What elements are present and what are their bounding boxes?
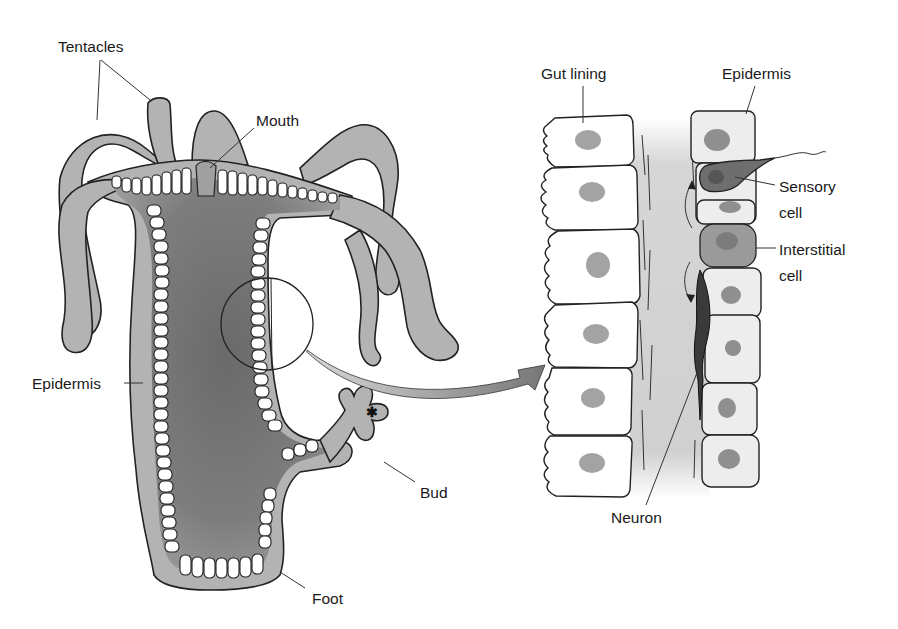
label-epidermis-right: Epidermis (722, 65, 791, 82)
hydra-diagram: ✱ Tentacles Mouth Epidermis Bud Foot (0, 0, 898, 629)
label-epidermis-left: Epidermis (32, 375, 101, 392)
label-mouth: Mouth (256, 112, 299, 129)
label-interstitial-cell-1: Interstitial (779, 241, 845, 258)
label-foot: Foot (312, 590, 344, 607)
label-neuron: Neuron (611, 509, 662, 526)
bud (320, 386, 388, 462)
leader-foot (280, 572, 305, 588)
gut-lining-cells (541, 115, 640, 497)
hydra-body-group: ✱ (59, 98, 545, 590)
leader-bud (384, 462, 415, 482)
tentacle-back-center (192, 111, 248, 165)
bud-mark-icon: ✱ (366, 404, 378, 420)
label-sensory-cell-2: cell (779, 204, 802, 221)
label-bud: Bud (420, 484, 448, 501)
leader-tentacles (97, 60, 150, 120)
magnified-body-wall (541, 111, 826, 498)
label-sensory-cell-1: Sensory (779, 178, 836, 195)
tentacle-front-right-inner (345, 230, 380, 366)
leader-epidermis-right (746, 86, 755, 114)
label-tentacles: Tentacles (58, 38, 124, 55)
label-interstitial-cell-2: cell (779, 267, 802, 284)
label-gut-lining: Gut lining (541, 65, 606, 82)
mouth-opening (196, 162, 216, 197)
